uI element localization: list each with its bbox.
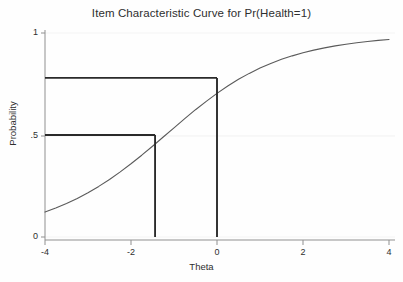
xtick-label-neg4: -4 <box>31 247 59 257</box>
chart-container: Item Characteristic Curve for Pr(Health=… <box>0 0 403 282</box>
xtick-label-neg2: -2 <box>117 247 145 257</box>
plot-area <box>0 0 403 282</box>
ytick-label-0: 0 <box>16 231 38 241</box>
x-axis <box>45 240 395 245</box>
xtick-label-2: 2 <box>289 247 317 257</box>
reference-line-upper <box>45 78 217 237</box>
y-axis <box>41 30 45 240</box>
ytick-label-point5: .5 <box>16 130 38 140</box>
xtick-label-0: 0 <box>203 247 231 257</box>
y-axis-title: Probability <box>7 88 18 160</box>
ytick-label-1: 1 <box>16 27 38 37</box>
x-axis-title: Theta <box>0 261 403 272</box>
xtick-label-4: 4 <box>375 247 403 257</box>
